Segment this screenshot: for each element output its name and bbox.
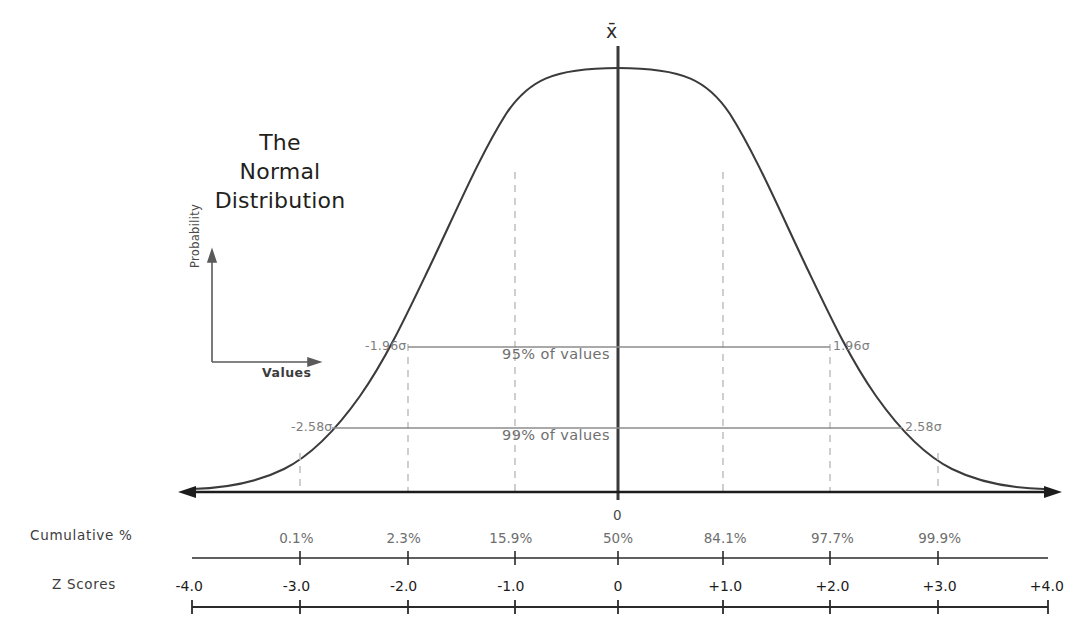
sigma-label-neg-2-58: -2.58σ bbox=[291, 421, 332, 434]
cumulative-percent-value: 97.7% bbox=[811, 530, 854, 546]
cumulative-percent-value: 0.1% bbox=[279, 530, 313, 546]
cumulative-axis bbox=[192, 551, 1048, 565]
main-axis bbox=[178, 486, 1062, 498]
mini-axis-xlabel: Values bbox=[262, 365, 312, 380]
cumulative-percent-value: 15.9% bbox=[489, 530, 532, 546]
axis-center-zero-label: 0 bbox=[613, 509, 622, 523]
page-title: The Normal Distribution bbox=[180, 128, 380, 215]
band-95-label: 95% of values bbox=[502, 347, 610, 362]
mini-axis-ylabel: Probability bbox=[188, 204, 202, 268]
normal-distribution-figure: The Normal Distribution Probability Valu… bbox=[0, 0, 1088, 637]
zscore-value: 0 bbox=[614, 578, 623, 594]
zscore-row-label: Z Scores bbox=[52, 578, 116, 592]
mini-axes-diagram bbox=[208, 250, 320, 366]
zscore-value: -2.0 bbox=[390, 578, 417, 594]
title-line-3: Distribution bbox=[180, 186, 380, 215]
sigma-label-pos-2-58: 2.58σ bbox=[905, 421, 942, 434]
zscore-value: +4.0 bbox=[1030, 578, 1064, 594]
mean-symbol-label: x̄ bbox=[606, 22, 617, 41]
zscore-value: -4.0 bbox=[176, 578, 203, 594]
zscore-value: -3.0 bbox=[283, 578, 310, 594]
band-99-label: 99% of values bbox=[502, 428, 610, 443]
zscore-value: -1.0 bbox=[497, 578, 524, 594]
sigma-label-neg-1-96: -1.96σ bbox=[365, 340, 406, 353]
title-line-1: The bbox=[180, 128, 380, 157]
zscore-axis bbox=[192, 600, 1048, 614]
zscore-value: +2.0 bbox=[815, 578, 849, 594]
cumulative-percent-value: 84.1% bbox=[704, 530, 747, 546]
zscore-value: +3.0 bbox=[923, 578, 957, 594]
cumulative-percent-value: 50% bbox=[603, 530, 633, 546]
title-line-2: Normal bbox=[180, 157, 380, 186]
zscore-value: +1.0 bbox=[708, 578, 742, 594]
cumulative-row-label: Cumulative % bbox=[30, 529, 133, 543]
sigma-label-pos-1-96: 1.96σ bbox=[833, 340, 870, 353]
cumulative-percent-value: 2.3% bbox=[386, 530, 420, 546]
cumulative-percent-value: 99.9% bbox=[918, 530, 961, 546]
